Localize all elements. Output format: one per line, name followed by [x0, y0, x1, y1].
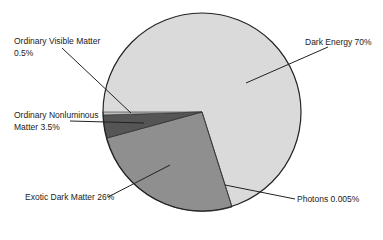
- label-nonluminous-line2: Matter 3.5%: [14, 122, 60, 133]
- label-exotic-dark-matter: Exotic Dark Matter 26%: [25, 192, 114, 203]
- label-visible-matter-line1: Ordinary Visible Matter: [14, 36, 100, 47]
- label-photons: Photons 0.005%: [297, 194, 359, 205]
- label-nonluminous-line1: Ordinary Nonluminous: [14, 110, 99, 121]
- label-visible-matter-line2: 0.5%: [14, 48, 33, 59]
- label-dark-energy: Dark Energy 70%: [305, 37, 372, 48]
